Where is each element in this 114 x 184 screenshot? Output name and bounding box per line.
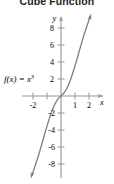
y-axis-label: y (52, 13, 57, 23)
y-tick-label-neg4: -4 (48, 126, 55, 135)
x-axis-label: x (99, 97, 104, 107)
figure-title: Cube Function (0, 0, 114, 7)
function-label: f(x) = x3 (4, 74, 34, 84)
cube-function-plot: y x -2 1 2 2 4 6 8 -2 -4 -6 -8 f(x) = x3 (0, 8, 114, 184)
function-label-base: f(x) = x (4, 74, 31, 84)
y-tick-label-neg6: -6 (48, 143, 55, 152)
cube-function-figure: Cube Function y x -2 1 (0, 0, 114, 184)
function-label-exponent: 3 (30, 74, 34, 80)
y-tick-label-pos2: 2 (50, 75, 54, 84)
x-tick-label-pos2: 2 (87, 101, 91, 110)
y-tick-label-pos8: 8 (50, 24, 54, 33)
y-tick-label-pos4: 4 (50, 58, 54, 67)
y-tick-label-neg2: -2 (48, 109, 55, 118)
x-tick-label-pos1: 1 (73, 101, 77, 110)
y-tick-label-pos6: 6 (50, 41, 54, 50)
x-tick-label-neg2: -2 (30, 101, 37, 110)
y-tick-label-neg8: -8 (48, 160, 55, 169)
